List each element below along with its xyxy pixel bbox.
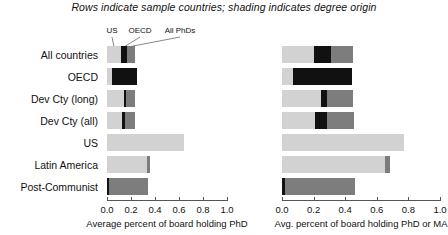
bar-row bbox=[282, 154, 440, 176]
stacked-bar[interactable] bbox=[107, 112, 135, 129]
stacked-bar[interactable] bbox=[107, 46, 135, 63]
row-label-group: All countries OECD Dev Cty (long) Dev Ct… bbox=[0, 44, 101, 198]
stacked-bar[interactable] bbox=[282, 134, 404, 151]
axis-tick bbox=[314, 197, 315, 201]
x-axis-right: 0.0 0.2 0.4 0.6 0.8 1.0 Avg. percent of … bbox=[282, 200, 440, 201]
axis-tick bbox=[345, 197, 346, 201]
row-label: US bbox=[0, 132, 101, 154]
stacked-bar[interactable] bbox=[107, 68, 137, 85]
bar-segment-us bbox=[282, 46, 314, 63]
stacked-bar[interactable] bbox=[282, 156, 390, 173]
x-axis-title: Average percent of board holding PhD bbox=[86, 218, 247, 229]
bar-segment-oecd bbox=[315, 112, 327, 129]
bar-segment-all bbox=[327, 90, 353, 107]
bar-segment-all bbox=[109, 178, 149, 195]
bar-segment-all bbox=[331, 46, 353, 63]
bar-segment-all bbox=[126, 90, 135, 107]
axis-tick-label: 1.0 bbox=[433, 204, 446, 215]
axis-tick-label: 0.4 bbox=[339, 204, 352, 215]
row-label: Dev Cty (long) bbox=[0, 88, 101, 110]
row-label: All countries bbox=[0, 44, 101, 66]
axis-tick-label: 0.8 bbox=[196, 204, 209, 215]
chart-panel-left: All countries OECD Dev Cty (long) Dev Ct… bbox=[0, 0, 240, 235]
bar-segment-oecd bbox=[112, 68, 137, 85]
bar-segment-us bbox=[107, 112, 122, 129]
bar-segment-all bbox=[285, 178, 355, 195]
bar-row bbox=[282, 44, 440, 66]
bar-segment-us bbox=[282, 68, 293, 85]
axis-tick-label: 0.2 bbox=[124, 204, 137, 215]
axis-tick bbox=[107, 197, 108, 201]
axis-tick bbox=[377, 197, 378, 201]
stacked-bar[interactable] bbox=[282, 68, 352, 85]
axis-tick bbox=[131, 197, 132, 201]
bar-row bbox=[282, 176, 440, 198]
bar-segment-us bbox=[107, 156, 147, 173]
bar-segment-us bbox=[107, 46, 121, 63]
row-label: Post-Communist bbox=[0, 176, 101, 198]
row-label: Dev Cty (all) bbox=[0, 110, 101, 132]
axis-tick-label: 0.0 bbox=[275, 204, 288, 215]
axis-tick bbox=[203, 197, 204, 201]
axis-tick-label: 0.6 bbox=[370, 204, 383, 215]
bar-row bbox=[107, 176, 227, 198]
axis-tick bbox=[155, 197, 156, 201]
bar-row bbox=[107, 66, 227, 88]
stacked-bar[interactable] bbox=[282, 112, 354, 129]
bar-segment-us bbox=[282, 134, 404, 151]
axis-tick bbox=[408, 197, 409, 201]
bar-segment-us bbox=[107, 134, 184, 151]
plot-area-right bbox=[282, 44, 440, 198]
stacked-bar[interactable] bbox=[282, 46, 353, 63]
axis-line bbox=[107, 200, 227, 201]
bar-row bbox=[107, 44, 227, 66]
bar-row bbox=[107, 154, 227, 176]
stacked-bar[interactable] bbox=[282, 178, 355, 195]
axis-tick-label: 0.2 bbox=[307, 204, 320, 215]
bar-segment-us bbox=[107, 90, 124, 107]
row-label: OECD bbox=[0, 66, 101, 88]
bar-row bbox=[107, 88, 227, 110]
stacked-bar[interactable] bbox=[107, 178, 148, 195]
stacked-bar[interactable] bbox=[107, 134, 184, 151]
bar-segment-oecd bbox=[293, 68, 352, 85]
axis-tick-label: 0.8 bbox=[402, 204, 415, 215]
bar-segment-all bbox=[125, 112, 135, 129]
bar-segment-all bbox=[147, 156, 150, 173]
bar-segment-oecd bbox=[314, 46, 331, 63]
bar-row bbox=[282, 110, 440, 132]
plot-area-left bbox=[107, 44, 227, 198]
axis-tick bbox=[440, 197, 441, 201]
bar-segment-all bbox=[385, 156, 390, 173]
bar-row bbox=[282, 132, 440, 154]
axis-tick-label: 0.6 bbox=[172, 204, 185, 215]
bar-row bbox=[282, 66, 440, 88]
row-label: Latin America bbox=[0, 154, 101, 176]
bar-segment-all bbox=[127, 46, 135, 63]
bar-row bbox=[107, 110, 227, 132]
bar-segment-us bbox=[282, 156, 385, 173]
bar-segment-us bbox=[282, 90, 321, 107]
stacked-bar[interactable] bbox=[282, 90, 353, 107]
bar-row bbox=[107, 132, 227, 154]
x-axis-left: 0.0 0.2 0.4 0.6 0.8 1.0 Average percent … bbox=[107, 200, 227, 201]
axis-tick bbox=[227, 197, 228, 201]
axis-line bbox=[282, 200, 440, 201]
axis-tick-label: 0.4 bbox=[148, 204, 161, 215]
bar-segment-all bbox=[327, 112, 354, 129]
bar-row bbox=[282, 88, 440, 110]
bar-segment-us bbox=[282, 112, 315, 129]
x-axis-title: Avg. percent of board holding PhD or MA bbox=[274, 218, 447, 229]
stacked-bar[interactable] bbox=[107, 90, 135, 107]
axis-tick-label: 0.0 bbox=[100, 204, 113, 215]
axis-tick-label: 1.0 bbox=[220, 204, 233, 215]
axis-tick bbox=[282, 197, 283, 201]
stacked-bar[interactable] bbox=[107, 156, 150, 173]
axis-tick bbox=[179, 197, 180, 201]
